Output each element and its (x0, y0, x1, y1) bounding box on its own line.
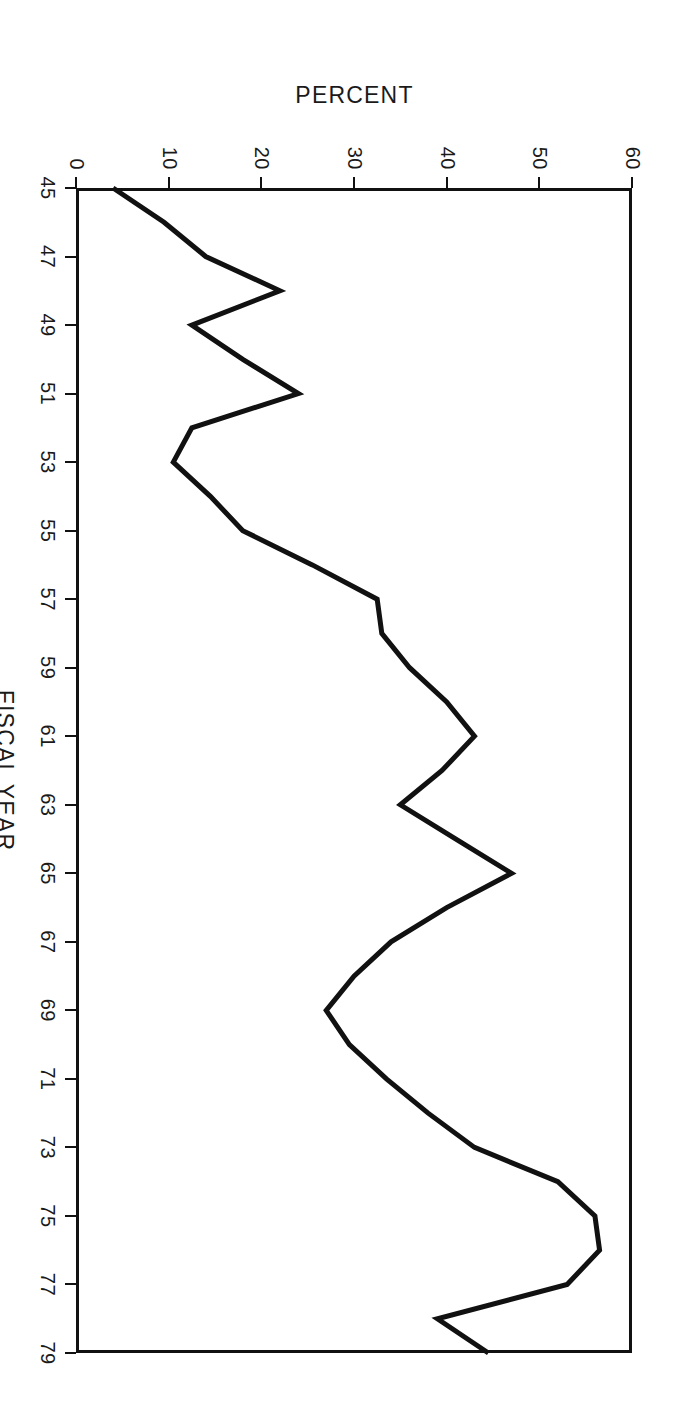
x-tick-label: 53 (36, 450, 59, 473)
x-tick-label: 71 (36, 1067, 59, 1090)
y-tick (260, 177, 262, 188)
y-tick (446, 177, 448, 188)
y-tick (538, 177, 540, 188)
x-tick (65, 872, 76, 874)
x-tick (65, 1009, 76, 1011)
x-tick-label: 51 (36, 382, 59, 405)
x-tick (65, 667, 76, 669)
x-tick (65, 256, 76, 258)
x-tick-label: 73 (36, 1136, 59, 1159)
x-tick (65, 461, 76, 463)
x-tick (65, 735, 76, 737)
x-tick (65, 804, 76, 806)
percent-line (113, 188, 600, 1353)
x-tick-label: 75 (36, 1204, 59, 1227)
x-tick-label: 69 (36, 999, 59, 1022)
x-tick-label: 63 (36, 793, 59, 816)
y-tick-label: 20 (250, 122, 273, 170)
y-tick (353, 177, 355, 188)
x-tick-label: 55 (36, 519, 59, 542)
x-tick-label: 49 (36, 313, 59, 336)
y-tick-label: 30 (343, 122, 366, 170)
y-tick-label: 10 (157, 122, 180, 170)
x-tick (65, 1352, 76, 1354)
y-tick-label: 50 (528, 122, 551, 170)
x-tick-label: 57 (36, 588, 59, 611)
x-tick (65, 393, 76, 395)
x-tick-label: 47 (36, 245, 59, 268)
x-tick-label: 45 (36, 176, 59, 199)
x-tick (65, 1078, 76, 1080)
x-tick (65, 1283, 76, 1285)
y-tick-label: 0 (65, 122, 88, 170)
y-axis-title: PERCENT (280, 82, 430, 109)
x-tick (65, 530, 76, 532)
y-tick-label: 60 (621, 122, 644, 170)
x-tick (65, 941, 76, 943)
x-tick (65, 598, 76, 600)
x-axis-title: FISCAL YEAR (0, 690, 18, 851)
line-series (76, 188, 632, 1353)
x-tick-label: 59 (36, 656, 59, 679)
x-tick-label: 61 (36, 725, 59, 748)
x-tick (65, 1146, 76, 1148)
chart-figure: 454749515355575961636567697173757779 010… (0, 0, 694, 1423)
x-tick (65, 324, 76, 326)
x-tick-label: 79 (36, 1341, 59, 1364)
chart-plot-area: 454749515355575961636567697173757779 010… (0, 0, 694, 1423)
x-tick-label: 65 (36, 862, 59, 885)
x-tick-label: 77 (36, 1273, 59, 1296)
x-tick-label: 67 (36, 930, 59, 953)
y-tick (631, 177, 633, 188)
y-tick (75, 177, 77, 188)
y-tick-label: 40 (435, 122, 458, 170)
x-tick (65, 1215, 76, 1217)
y-tick (168, 177, 170, 188)
